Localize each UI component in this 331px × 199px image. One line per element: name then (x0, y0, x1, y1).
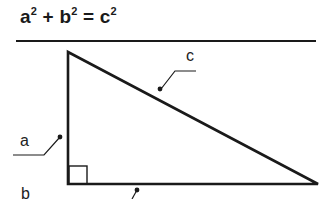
triangle-diagram: a b c (0, 0, 331, 199)
label-side-b: b (21, 185, 30, 199)
right-triangle (68, 52, 318, 184)
leader-line-c (161, 71, 196, 89)
label-side-c: c (186, 47, 194, 64)
label-side-a: a (20, 132, 29, 149)
leader-dot-b (135, 188, 140, 193)
leader-dot-c (158, 87, 163, 92)
leader-dot-a (58, 135, 63, 140)
right-angle-marker (69, 166, 87, 184)
